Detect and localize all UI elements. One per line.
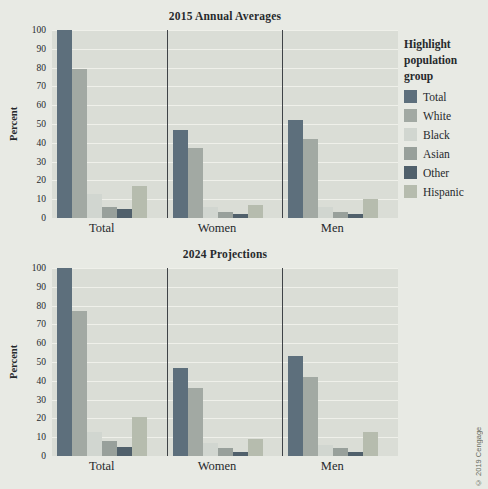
bar-hispanic-men bbox=[363, 199, 378, 218]
legend-item-asian[interactable]: Asian bbox=[404, 144, 488, 163]
plot-section-women bbox=[167, 30, 283, 218]
category-labels: TotalWomenMen bbox=[52, 459, 398, 474]
bar-hispanic-men bbox=[363, 432, 378, 456]
chart-title: 2015 Annual Averages bbox=[52, 10, 398, 22]
y-tick-label: 70 bbox=[14, 319, 46, 329]
bar-white-men bbox=[303, 377, 318, 456]
bar-black-women bbox=[203, 443, 218, 456]
bar-black-men bbox=[318, 445, 333, 456]
bar-asian-men bbox=[333, 448, 348, 456]
category-label-men: Men bbox=[283, 459, 398, 474]
bar-hispanic-women bbox=[248, 205, 263, 218]
bar-hispanic-total bbox=[132, 186, 147, 218]
bar-hispanic-women bbox=[248, 439, 263, 456]
plot-section-women bbox=[167, 268, 283, 456]
bar-black-total bbox=[87, 432, 102, 456]
legend-label: Total bbox=[423, 91, 446, 103]
bar-black-women bbox=[203, 207, 218, 218]
y-axis: 0102030405060708090100 bbox=[14, 30, 46, 218]
bar-cluster-women bbox=[173, 368, 263, 456]
plot-section-total bbox=[52, 268, 167, 456]
bar-other-men bbox=[348, 214, 363, 218]
bar-total-total bbox=[57, 268, 72, 456]
y-tick-label: 90 bbox=[14, 44, 46, 54]
chart-2024-projections: 2024 Projections Percent 010203040506070… bbox=[0, 240, 488, 476]
y-tick-label: 10 bbox=[14, 194, 46, 204]
y-tick-label: 50 bbox=[14, 119, 46, 129]
copyright-text: © 2019 Cengage bbox=[474, 395, 484, 487]
figure: 2015 Annual Averages Percent 01020304050… bbox=[0, 0, 488, 489]
legend-label: Hispanic bbox=[423, 186, 464, 198]
bar-asian-men bbox=[333, 212, 348, 218]
y-axis: 0102030405060708090100 bbox=[14, 268, 46, 456]
legend-label: White bbox=[423, 110, 451, 122]
legend-swatch-hispanic-icon bbox=[404, 185, 417, 198]
category-label-women: Women bbox=[167, 459, 282, 474]
y-tick-label: 30 bbox=[14, 395, 46, 405]
bar-hispanic-total bbox=[132, 417, 147, 456]
y-tick-label: 20 bbox=[14, 175, 46, 185]
legend-item-other[interactable]: Other bbox=[404, 163, 488, 182]
y-tick-label: 80 bbox=[14, 63, 46, 73]
legend-item-white[interactable]: White bbox=[404, 106, 488, 125]
plot-section-total bbox=[52, 30, 167, 218]
chart-title: 2024 Projections bbox=[52, 248, 398, 260]
y-tick-label: 40 bbox=[14, 376, 46, 386]
y-tick-label: 90 bbox=[14, 282, 46, 292]
bar-other-men bbox=[348, 452, 363, 456]
bar-white-total bbox=[72, 69, 87, 218]
bar-asian-women bbox=[218, 448, 233, 456]
legend-swatch-total-icon bbox=[404, 90, 417, 103]
bar-cluster-men bbox=[288, 120, 378, 218]
bar-asian-women bbox=[218, 212, 233, 218]
bar-asian-total bbox=[102, 441, 117, 456]
category-label-women: Women bbox=[167, 221, 282, 236]
bar-other-women bbox=[233, 214, 248, 218]
y-tick-label: 70 bbox=[14, 81, 46, 91]
y-tick-label: 60 bbox=[14, 100, 46, 110]
plot-area bbox=[52, 30, 398, 218]
legend: Highlight population group TotalWhiteBla… bbox=[404, 36, 488, 201]
y-tick-label: 100 bbox=[14, 263, 46, 273]
y-tick-label: 80 bbox=[14, 301, 46, 311]
bar-total-men bbox=[288, 356, 303, 456]
legend-label: Other bbox=[423, 167, 449, 179]
y-tick-label: 20 bbox=[14, 413, 46, 423]
bar-cluster-total bbox=[57, 268, 147, 456]
legend-label: Black bbox=[423, 129, 450, 141]
legend-label: Asian bbox=[423, 148, 450, 160]
bar-white-women bbox=[188, 148, 203, 218]
legend-item-black[interactable]: Black bbox=[404, 125, 488, 144]
bar-black-total bbox=[87, 194, 102, 218]
bar-total-total bbox=[57, 30, 72, 218]
legend-swatch-asian-icon bbox=[404, 147, 417, 160]
legend-item-hispanic[interactable]: Hispanic bbox=[404, 182, 488, 201]
legend-swatch-black-icon bbox=[404, 128, 417, 141]
plot-area bbox=[52, 268, 398, 456]
category-label-total: Total bbox=[52, 221, 167, 236]
legend-title: Highlight population group bbox=[404, 36, 488, 84]
y-tick-label: 50 bbox=[14, 357, 46, 367]
category-label-men: Men bbox=[283, 221, 398, 236]
category-label-total: Total bbox=[52, 459, 167, 474]
plot-section-men bbox=[282, 30, 398, 218]
bar-white-total bbox=[72, 311, 87, 456]
bar-total-women bbox=[173, 130, 188, 218]
y-tick-label: 0 bbox=[14, 451, 46, 461]
category-labels: TotalWomenMen bbox=[52, 221, 398, 236]
bar-asian-total bbox=[102, 207, 117, 218]
y-tick-label: 60 bbox=[14, 338, 46, 348]
bar-black-men bbox=[318, 207, 333, 218]
legend-swatch-other-icon bbox=[404, 166, 417, 179]
legend-item-total[interactable]: Total bbox=[404, 87, 488, 106]
y-tick-label: 10 bbox=[14, 432, 46, 442]
bar-white-women bbox=[188, 388, 203, 456]
bar-other-total bbox=[117, 209, 132, 218]
legend-items: TotalWhiteBlackAsianOtherHispanic bbox=[404, 87, 488, 201]
bar-cluster-women bbox=[173, 130, 263, 218]
y-tick-label: 40 bbox=[14, 138, 46, 148]
bar-other-women bbox=[233, 452, 248, 456]
bar-white-men bbox=[303, 139, 318, 218]
y-tick-label: 30 bbox=[14, 157, 46, 167]
y-tick-label: 0 bbox=[14, 213, 46, 223]
